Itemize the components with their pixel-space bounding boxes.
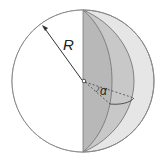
angle-label: α: [100, 84, 108, 98]
left-hemisphere: [12, 10, 83, 152]
sphere-wedge-diagram: R α: [0, 0, 166, 160]
radius-label: R: [63, 36, 74, 53]
